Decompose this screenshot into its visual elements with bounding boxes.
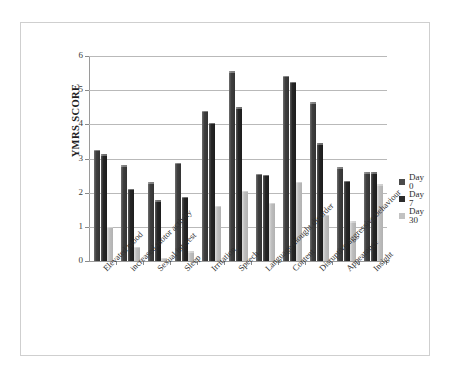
- bar-highlight: [350, 221, 356, 223]
- bar-highlight: [256, 174, 262, 176]
- y-tick-label: 2: [57, 188, 83, 197]
- bar-highlight: [215, 206, 221, 208]
- bar-highlight: [263, 175, 269, 177]
- bar-highlight: [229, 71, 235, 73]
- bar-highlight: [317, 143, 323, 145]
- bar-highlight: [155, 200, 161, 202]
- bar-highlight: [269, 203, 275, 205]
- bar-highlight: [364, 172, 370, 174]
- legend-item[interactable]: Day 30: [399, 209, 429, 223]
- bar-highlight: [188, 251, 194, 253]
- legend-label: Day 30: [409, 207, 429, 225]
- bar-highlight: [283, 76, 289, 78]
- chart-legend: Day 0Day 7Day 30: [399, 175, 429, 226]
- bar-highlight: [296, 182, 302, 184]
- bar-highlight: [94, 150, 100, 152]
- bar-highlight: [175, 163, 181, 165]
- legend-item[interactable]: Day 0: [399, 175, 429, 189]
- bar-group: [256, 56, 275, 261]
- bar-highlight: [377, 184, 383, 186]
- bar-highlight: [134, 247, 140, 249]
- y-tick-label: 0: [57, 256, 83, 265]
- bar-highlight: [290, 82, 296, 84]
- bar: [256, 174, 262, 261]
- bar: [283, 76, 289, 261]
- bar: [101, 154, 107, 261]
- bar-group: [202, 56, 221, 261]
- legend-item[interactable]: Day 7: [399, 192, 429, 206]
- bar-highlight: [128, 189, 134, 191]
- bar: [310, 102, 316, 261]
- bar-highlight: [236, 107, 242, 109]
- legend-swatch: [399, 179, 405, 185]
- bar-group: [94, 56, 113, 261]
- bar-highlight: [101, 154, 107, 156]
- y-tick-label: 6: [57, 51, 83, 60]
- bar: [242, 191, 248, 261]
- legend-swatch: [399, 213, 405, 219]
- bar: [229, 71, 235, 261]
- y-tick-label: 5: [57, 85, 83, 94]
- bar-highlight: [202, 111, 208, 113]
- bar-highlight: [121, 165, 127, 167]
- bar: [94, 150, 100, 261]
- bar-highlight: [371, 172, 377, 174]
- plot-area: [89, 56, 386, 261]
- y-tick-label: 4: [57, 119, 83, 128]
- bar: [296, 182, 302, 261]
- bar: [215, 206, 221, 261]
- bar-highlight: [344, 181, 350, 183]
- bar-highlight: [107, 227, 113, 229]
- legend-swatch: [399, 196, 405, 202]
- bar-highlight: [242, 191, 248, 193]
- bar-highlight: [337, 167, 343, 169]
- bar-highlight: [148, 182, 154, 184]
- bar-highlight: [209, 123, 215, 125]
- bar: [236, 107, 242, 261]
- bar: [263, 175, 269, 261]
- bar: [202, 111, 208, 261]
- bar-highlight: [182, 197, 188, 199]
- y-tick-mark: [85, 261, 89, 262]
- chart-frame: YMRS SCORE 0123456 Elevated moodincrease…: [20, 22, 430, 356]
- bar-highlight: [310, 102, 316, 104]
- bar: [269, 203, 275, 261]
- bar: [317, 143, 323, 261]
- bar: [377, 184, 383, 261]
- y-tick-label: 3: [57, 154, 83, 163]
- y-tick-label: 1: [57, 222, 83, 231]
- bar-group: [229, 56, 248, 261]
- bar: [209, 123, 215, 261]
